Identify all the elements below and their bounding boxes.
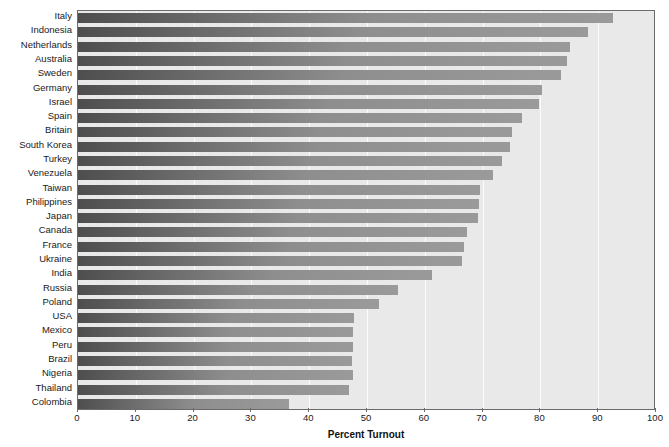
x-tick-label: 100 [647, 412, 663, 423]
x-tick-label: 80 [534, 412, 545, 423]
bar [78, 42, 570, 52]
y-axis-label: Colombia [0, 397, 72, 407]
y-axis-label: South Korea [0, 140, 72, 150]
x-axis-tick-labels: 0102030405060708090100 [77, 412, 655, 426]
y-axis-label: Britain [0, 125, 72, 135]
plot-area [77, 10, 655, 410]
y-axis-label: Russia [0, 283, 72, 293]
bar [78, 113, 522, 123]
y-axis-label: Nigeria [0, 368, 72, 378]
bar-fill [78, 185, 480, 195]
bar-fill [78, 256, 462, 266]
bar [78, 385, 349, 395]
bar-fill [78, 342, 353, 352]
y-axis-label: Sweden [0, 68, 72, 78]
y-axis-label: Philippines [0, 197, 72, 207]
y-axis-label: Mexico [0, 325, 72, 335]
bar [78, 256, 462, 266]
bar-fill [78, 56, 567, 66]
bar-fill [78, 370, 353, 380]
y-axis-label: USA [0, 311, 72, 321]
bar [78, 399, 289, 409]
bar [78, 185, 480, 195]
y-axis-label: France [0, 240, 72, 250]
x-tick-label: 10 [130, 412, 141, 423]
bar [78, 142, 510, 152]
y-axis-label: Israel [0, 97, 72, 107]
y-axis-label: Venezuela [0, 168, 72, 178]
bar-fill [78, 227, 467, 237]
x-tick-label: 70 [476, 412, 487, 423]
y-axis-label: Taiwan [0, 183, 72, 193]
y-axis-label: Peru [0, 340, 72, 350]
bar-fill [78, 213, 478, 223]
bar-fill [78, 299, 379, 309]
y-axis-label: Poland [0, 297, 72, 307]
x-tick-label: 0 [74, 412, 79, 423]
bar [78, 85, 542, 95]
bar-fill [78, 270, 432, 280]
y-axis-label: Indonesia [0, 25, 72, 35]
bar [78, 213, 478, 223]
y-axis-label: Turkey [0, 154, 72, 164]
x-tick-label: 20 [187, 412, 198, 423]
bar-fill [78, 327, 353, 337]
bar-fill [78, 127, 512, 137]
x-tick-label: 60 [419, 412, 430, 423]
bar [78, 27, 588, 37]
gridline [598, 11, 599, 409]
bar-fill [78, 13, 613, 23]
bar-fill [78, 313, 354, 323]
bar [78, 342, 353, 352]
bar-fill [78, 113, 522, 123]
y-axis-label: Canada [0, 225, 72, 235]
bar [78, 313, 354, 323]
x-tick-label: 40 [303, 412, 314, 423]
bar-fill [78, 42, 570, 52]
bar-fill [78, 142, 510, 152]
y-axis-label: Spain [0, 111, 72, 121]
y-axis-label: Italy [0, 11, 72, 21]
y-axis-label: Netherlands [0, 40, 72, 50]
bar [78, 242, 464, 252]
bar-fill [78, 27, 588, 37]
x-tick-label: 50 [361, 412, 372, 423]
bar-fill [78, 242, 464, 252]
y-axis-label: Brazil [0, 354, 72, 364]
bar-chart: ItalyIndonesiaNetherlandsAustraliaSweden… [0, 0, 669, 447]
bar-fill [78, 85, 542, 95]
x-tick-label: 90 [592, 412, 603, 423]
y-axis-label: Germany [0, 83, 72, 93]
bar [78, 70, 561, 80]
bar [78, 327, 353, 337]
y-axis-label: Ukraine [0, 254, 72, 264]
bar-fill [78, 156, 502, 166]
bar [78, 285, 398, 295]
bar [78, 199, 479, 209]
bar [78, 56, 567, 66]
bar-fill [78, 385, 349, 395]
bar [78, 170, 493, 180]
bar-fill [78, 170, 493, 180]
bar [78, 270, 432, 280]
x-tick-label: 30 [245, 412, 256, 423]
bar [78, 99, 539, 109]
bar-fill [78, 199, 479, 209]
bar-fill [78, 70, 561, 80]
bar [78, 13, 613, 23]
bar-fill [78, 99, 539, 109]
y-axis-label: India [0, 268, 72, 278]
bar-fill [78, 356, 352, 366]
y-axis-label: Australia [0, 54, 72, 64]
bar [78, 356, 352, 366]
y-axis-label: Thailand [0, 383, 72, 393]
bar [78, 127, 512, 137]
y-axis-category-labels: ItalyIndonesiaNetherlandsAustraliaSweden… [0, 10, 72, 410]
bar [78, 370, 353, 380]
bar-fill [78, 399, 289, 409]
bar [78, 156, 502, 166]
bar-fill [78, 285, 398, 295]
bar [78, 299, 379, 309]
y-axis-label: Japan [0, 211, 72, 221]
bar [78, 227, 467, 237]
